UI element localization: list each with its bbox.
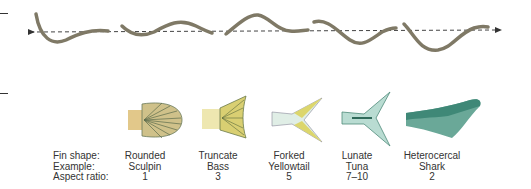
fin-aspect-ratio: 7–10: [342, 172, 373, 183]
fin-column-forked: Forked Yellowtail 5: [268, 151, 309, 183]
fin-heterocercal-illustration: [406, 99, 481, 138]
eel-frames: [36, 14, 488, 50]
fin-column-lunate: Lunate Tuna 7–10: [342, 151, 373, 183]
fin-column-rounded: Rounded Sculpin 1: [125, 151, 166, 183]
fin-column-truncate: Truncate Bass 3: [198, 151, 237, 183]
fin-column-heterocercal: Heterocercal Shark 2: [404, 151, 461, 183]
fin-shape: Truncate: [198, 151, 237, 162]
fin-shape: Rounded: [125, 151, 166, 162]
fin-aspect-ratio: 3: [198, 172, 237, 183]
fin-truncate-illustration: [202, 96, 246, 138]
fin-lunate-illustration: [342, 92, 390, 146]
row-headers: Fin shape: Example: Aspect ratio:: [53, 151, 109, 183]
header-aspect-ratio: Aspect ratio:: [53, 172, 109, 183]
fin-shape: Heterocercal: [404, 151, 461, 162]
fin-rounded-illustration: [128, 103, 182, 138]
fin-aspect-ratio: 1: [125, 172, 166, 183]
fin-shape: Forked: [268, 151, 309, 162]
fin-aspect-ratio: 2: [404, 172, 461, 183]
fin-shape: Lunate: [342, 151, 373, 162]
header-fin-shape: Fin shape:: [53, 151, 109, 162]
fin-aspect-ratio: 5: [268, 172, 309, 183]
fin-forked-illustration: [272, 98, 322, 142]
